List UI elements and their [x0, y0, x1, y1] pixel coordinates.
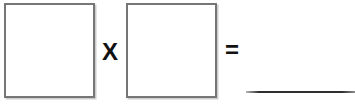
multiplication-equation: X =: [0, 0, 355, 104]
equals-sign: =: [225, 36, 239, 64]
answer-blank-line[interactable]: [246, 91, 355, 93]
multiplication-sign: X: [102, 38, 118, 66]
factor-box-1[interactable]: [4, 3, 95, 98]
factor-box-2[interactable]: [126, 3, 217, 98]
